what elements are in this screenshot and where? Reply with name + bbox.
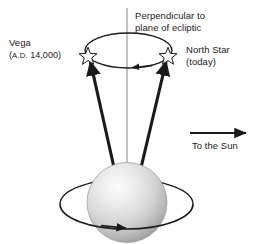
precession-diagram: Perpendicular to plane of ecliptic Vega … [0, 0, 258, 244]
label-vega-epoch-prefix: A.D. [12, 51, 28, 60]
label-vega-epoch: (A.D. 14,000) [9, 49, 61, 62]
label-north-star-today: (today) [186, 56, 216, 68]
axis-arrow-to-north-star [140, 62, 166, 172]
precession-ellipse [85, 33, 172, 68]
label-vega: Vega [9, 37, 31, 49]
label-to-the-sun: To the Sun [192, 140, 238, 152]
label-perpendicular-to-ecliptic: Perpendicular to plane of ecliptic [135, 10, 205, 34]
label-vega-epoch-year: 14,000) [30, 50, 61, 60]
earth-sphere [87, 163, 167, 243]
label-north-star: North Star [186, 44, 230, 56]
diagram-canvas [0, 0, 258, 244]
axis-arrow-to-vega [91, 62, 116, 172]
